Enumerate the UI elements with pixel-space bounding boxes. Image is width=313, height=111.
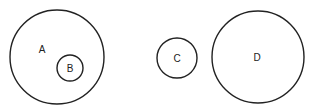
circle-b: B (57, 55, 83, 81)
circle-c-label: C (173, 53, 180, 64)
circle-d: D (212, 11, 304, 103)
circle-a-label: A (39, 44, 46, 55)
circle-b-label: B (67, 63, 74, 74)
circle-a: A (10, 10, 104, 104)
circle-c: C (157, 38, 197, 78)
set-diagram: ABCD (0, 0, 313, 111)
circle-d-label: D (253, 52, 260, 63)
circle-a-shape (10, 10, 104, 104)
